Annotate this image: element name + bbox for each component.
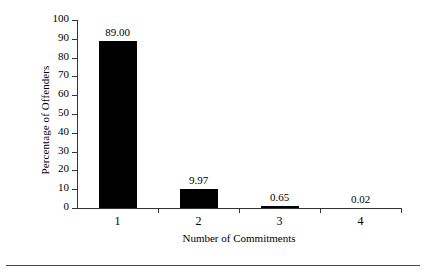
x-axis-category-label: 4 xyxy=(358,214,364,229)
y-axis-tick: 30 xyxy=(72,152,77,153)
x-axis-category-label: 3 xyxy=(277,214,283,229)
y-axis-title: Percentage of Offenders xyxy=(39,25,51,215)
bar: 9.97 xyxy=(180,189,218,208)
y-axis-tick-label: 40 xyxy=(58,125,69,137)
y-axis-spine xyxy=(77,20,78,208)
y-axis-tick: 80 xyxy=(72,58,77,59)
bar-value-label: 0.02 xyxy=(351,193,370,205)
bar-chart-figure: Percentage of Offenders 0102030405060708… xyxy=(0,0,426,273)
y-axis-tick-label: 80 xyxy=(58,50,69,62)
y-axis-tick: 20 xyxy=(72,170,77,171)
y-axis-tick: 70 xyxy=(72,76,77,77)
y-axis-tick-label: 90 xyxy=(58,31,69,43)
y-axis-tick: 60 xyxy=(72,95,77,96)
bar-value-label: 0.65 xyxy=(270,191,289,203)
bar-value-label: 9.97 xyxy=(189,174,208,186)
y-axis-tick-label: 100 xyxy=(53,12,70,24)
x-axis-category-label: 1 xyxy=(115,214,121,229)
y-axis-tick-label: 50 xyxy=(58,106,69,118)
y-axis-tick-label: 20 xyxy=(58,162,69,174)
x-axis-tick xyxy=(158,208,159,213)
y-axis-tick-label: 60 xyxy=(58,87,69,99)
y-axis-tick: 10 xyxy=(72,189,77,190)
y-axis-tick-label: 70 xyxy=(58,68,69,80)
bottom-divider xyxy=(6,265,420,266)
plot-area: 010203040506070809010089.0019.9720.6530.… xyxy=(77,20,401,208)
x-axis-title: Number of Commitments xyxy=(77,232,401,244)
y-axis-tick: 0 xyxy=(72,208,77,209)
y-axis-tick: 50 xyxy=(72,114,77,115)
y-axis-tick: 40 xyxy=(72,133,77,134)
bar: 89.00 xyxy=(99,41,137,208)
y-axis-tick-label: 10 xyxy=(58,181,69,193)
bar: 0.65 xyxy=(261,206,299,209)
x-axis-tick xyxy=(401,208,402,213)
y-axis-tick: 90 xyxy=(72,39,77,40)
y-axis-tick-label: 0 xyxy=(64,200,70,212)
x-axis-tick xyxy=(239,208,240,213)
x-axis-category-label: 2 xyxy=(196,214,202,229)
y-axis-tick-label: 30 xyxy=(58,144,69,156)
y-axis-tick: 100 xyxy=(72,20,77,21)
x-axis-tick xyxy=(320,208,321,213)
bar-value-label: 89.00 xyxy=(105,26,130,38)
